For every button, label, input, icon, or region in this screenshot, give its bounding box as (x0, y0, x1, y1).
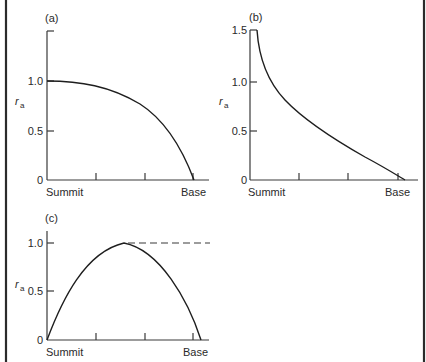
panel-a-xlabel-summit: Summit (46, 186, 83, 198)
panel-b-xlabel-base: Base (385, 186, 410, 198)
panel-c-xlabel-base: Base (183, 346, 208, 358)
panel-b-ytick-label: 1.5 (232, 24, 247, 36)
panel-c-xlabel-summit: Summit (46, 346, 83, 358)
panel-a-ytick-label: 0 (37, 174, 43, 186)
panel-b-curve (257, 30, 405, 180)
panel-c-label: (c) (45, 212, 58, 224)
panel-a: (a) 1.0 0.5 0 r a Summit Base (15, 12, 209, 198)
panel-b-ytick-label: 0.5 (232, 125, 247, 137)
panel-c-ylabel-sub: a (20, 284, 25, 293)
panel-a-label: (a) (45, 12, 58, 24)
panel-a-ytick-label: 0.5 (28, 125, 43, 137)
panel-c-ytick-label: 1.0 (28, 237, 43, 249)
panel-c-curve (47, 243, 201, 340)
panel-b-label: (b) (249, 11, 262, 23)
panel-b-xlabel-summit: Summit (248, 186, 285, 198)
figure: (a) 1.0 0.5 0 r a Summit Base (b) 1.5 (0, 0, 426, 362)
panel-b-ytick-label: 0 (241, 174, 247, 186)
panel-b: (b) 1.5 1.0 0.5 0 r a Summit Base (219, 11, 418, 198)
panel-c-ytick-label: 0 (37, 334, 43, 346)
panel-a-curve (47, 81, 194, 180)
panel-a-xlabel-base: Base (181, 186, 206, 198)
panel-c-ytick-label: 0.5 (28, 285, 43, 297)
panel-a-ytick-label: 1.0 (28, 75, 43, 87)
panel-a-ylabel-sub: a (20, 101, 25, 110)
panel-c: (c) 1.0 0.5 0 r a Summit Base (15, 212, 210, 358)
panel-b-ylabel-sub: a (224, 101, 229, 110)
panel-b-ytick-label: 1.0 (232, 76, 247, 88)
